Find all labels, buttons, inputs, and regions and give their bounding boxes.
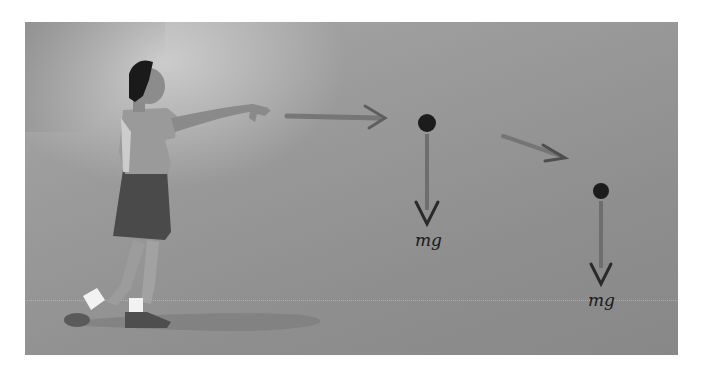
downward-velocity-arrow xyxy=(503,136,565,161)
skirt xyxy=(113,170,171,240)
horizontal-velocity-arrow xyxy=(287,106,385,128)
scene-graphics xyxy=(25,22,678,355)
girl-figure xyxy=(64,61,271,329)
right-sock xyxy=(129,298,143,312)
right-shoe xyxy=(125,312,171,328)
ball-position-1 xyxy=(416,114,438,224)
ball-position-2 xyxy=(591,183,611,284)
left-sock xyxy=(83,288,105,310)
illustration-panel: mg mg xyxy=(25,22,678,355)
floor-shadow xyxy=(85,313,320,331)
force-label-1: mg xyxy=(415,230,442,250)
force-label-2: mg xyxy=(588,290,615,310)
left-shoe xyxy=(64,313,90,327)
